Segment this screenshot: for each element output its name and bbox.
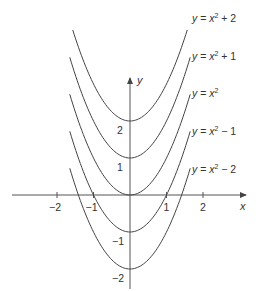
x-tick-label: 1 [164, 202, 170, 213]
x-tick-label: −2 [49, 202, 61, 213]
y-tick-label: −1 [112, 236, 124, 247]
series-label-3: y = x2 − 1 [192, 126, 236, 137]
x-tick-label: 2 [200, 202, 206, 213]
series-label-2: y = x2 [192, 88, 218, 99]
series-label-0: y = x2 + 2 [192, 13, 236, 24]
y-axis-label: y [137, 75, 143, 86]
y-tick-label: −2 [112, 273, 124, 284]
y-tick-label: 2 [117, 125, 123, 136]
series-label-1: y = x2 + 1 [192, 51, 236, 62]
y-tick-label: 1 [117, 162, 123, 173]
x-axis-label: x [240, 201, 246, 212]
chart-canvas [0, 0, 258, 291]
x-tick-label: −1 [86, 202, 98, 213]
series-label-4: y = x2 − 2 [192, 164, 236, 175]
